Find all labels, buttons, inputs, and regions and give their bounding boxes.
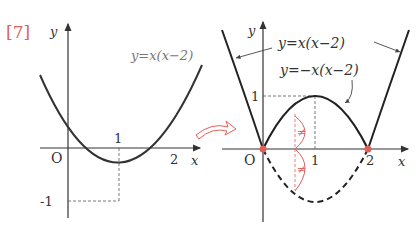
diagram-canvas: [7] y x O 1 2 -1 y=x(x−2) y x O 1 2 1 xyxy=(0,0,416,228)
tick-label-y1: 1 xyxy=(251,89,259,104)
x-axis-label: x xyxy=(191,153,199,168)
y-axis-label: y xyxy=(247,23,256,38)
intercept-dot-0 xyxy=(260,146,267,153)
tick-label-2: 2 xyxy=(366,153,374,168)
inner-curve-label: y=−x(x−2) xyxy=(279,62,359,78)
tick-label-1: 1 xyxy=(114,131,122,146)
transform-arrow-icon xyxy=(196,121,236,139)
equal-mark-upper: ≠ xyxy=(297,126,306,139)
right-graph: y x O 1 2 1 ≠ ≠ y=x(x−2) y=−x(x−2) xyxy=(222,22,409,222)
tick-label-2: 2 xyxy=(170,152,178,167)
origin-label: O xyxy=(244,152,255,168)
tick-label-1: 1 xyxy=(311,153,319,168)
y-axis-label: y xyxy=(49,24,58,39)
problem-number: [7] xyxy=(6,22,30,42)
x-axis-label: x xyxy=(398,154,406,169)
origin-label: O xyxy=(51,150,62,166)
curve-label: y=x(x−2) xyxy=(130,48,193,63)
left-graph: y x O 1 2 -1 y=x(x−2) xyxy=(40,24,202,218)
equal-mark-lower: ≠ xyxy=(297,163,306,176)
inverted-arch xyxy=(263,96,368,149)
outer-curve-label: y=x(x−2) xyxy=(277,35,345,51)
intercept-dot-2 xyxy=(365,146,372,153)
tick-label-minus1: -1 xyxy=(40,194,53,209)
